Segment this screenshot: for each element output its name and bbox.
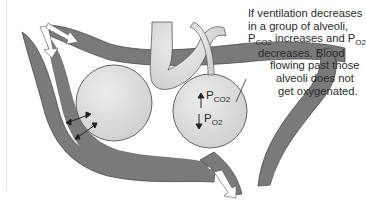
po2-sub: O2 xyxy=(212,118,223,127)
caption-line: get oxygenated. xyxy=(248,85,362,98)
pco2-sub: CO2 xyxy=(214,95,230,104)
caption-line: in a group of alveoli, xyxy=(248,20,362,33)
po2-label: PO2 xyxy=(204,112,222,124)
right-alveolus xyxy=(173,74,247,148)
caption-line: PCO2 increases and PO2 xyxy=(248,32,362,47)
pco2-label: PCO2 xyxy=(206,89,230,101)
caption-line: decreases. Blood xyxy=(248,47,362,60)
co2-subscript: CO2 xyxy=(255,38,271,47)
caption-line: flowing past those xyxy=(248,59,362,72)
caption-fragment: increases and P xyxy=(272,32,355,44)
po2-main: P xyxy=(204,112,212,124)
caption-text: If ventilation decreases in a group of a… xyxy=(248,7,362,97)
pco2-main: P xyxy=(206,89,214,101)
left-alveolus xyxy=(76,65,152,141)
o2-subscript: O2 xyxy=(355,38,366,47)
caption-line: If ventilation decreases xyxy=(248,7,362,20)
caption-line: alveoli does not xyxy=(248,72,362,85)
